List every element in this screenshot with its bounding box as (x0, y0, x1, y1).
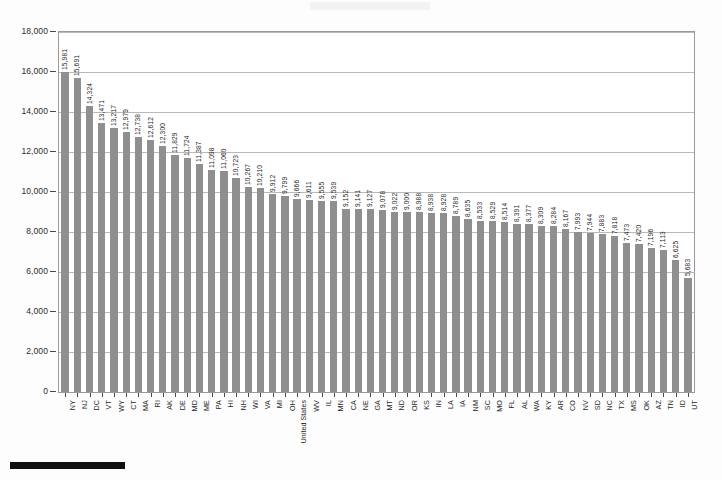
bar: 8,377 (525, 32, 532, 392)
bar-value-label: 8,391 (513, 205, 520, 222)
bar-value-label: 11,724 (183, 135, 190, 156)
bar: 9,555 (318, 32, 325, 392)
x-tick-label: IA (458, 400, 467, 407)
x-tick-mark (346, 393, 347, 397)
x-tick-label: WV (312, 400, 321, 412)
x-tick-label: OK (642, 400, 651, 411)
bar: 10,267 (245, 32, 252, 392)
bar: 7,196 (648, 32, 655, 392)
bar-rect (379, 210, 386, 392)
bar-value-label: 13,471 (97, 100, 104, 121)
y-tick-mark (50, 151, 56, 152)
x-tick-mark (566, 393, 567, 397)
bar: 8,167 (562, 32, 569, 392)
bar-value-label: 11,829 (171, 133, 178, 154)
x-tick-mark (602, 393, 603, 397)
x-tick-mark (322, 393, 323, 397)
x-tick-mark (370, 393, 371, 397)
bar: 9,127 (367, 32, 374, 392)
x-tick-mark (187, 393, 188, 397)
bar-rect (623, 243, 630, 392)
x-tick-label: IN (434, 400, 443, 407)
bar-value-label: 13,217 (110, 105, 117, 126)
x-tick-mark (688, 393, 689, 397)
bar-rect (61, 72, 68, 392)
bars-layer: 15,98115,69114,32413,47113,21712,97912,7… (59, 32, 694, 392)
bar-rect (391, 212, 398, 392)
bar-rect (342, 209, 349, 392)
y-tick-mark (50, 311, 56, 312)
x-tick-label: IL (324, 400, 333, 406)
x-tick-label: MN (336, 400, 345, 411)
bar-rect (501, 222, 508, 392)
footer-rule (10, 462, 125, 469)
bar: 15,981 (61, 32, 68, 392)
x-tick-label: MD (190, 400, 199, 411)
bar-value-label: 7,818 (610, 216, 617, 233)
x-tick-mark (493, 393, 494, 397)
bar-value-label: 9,912 (268, 175, 275, 192)
x-tick-mark (529, 393, 530, 397)
x-tick-label: HI (226, 400, 235, 407)
x-tick-label: AR (556, 400, 565, 410)
x-tick-label: CA (349, 400, 358, 410)
bar: 7,473 (623, 32, 630, 392)
x-tick-mark (260, 393, 261, 397)
bar-value-label: 11,387 (195, 142, 202, 163)
x-tick-label: AL (520, 400, 529, 409)
x-tick-label: GA (373, 400, 382, 411)
x-tick-label: NH (239, 400, 248, 411)
x-tick-mark (309, 393, 310, 397)
y-tick-label: 0 (43, 386, 48, 396)
x-tick-mark (102, 393, 103, 397)
x-tick-mark (590, 393, 591, 397)
bar-rect (220, 171, 227, 392)
bar: 6,625 (672, 32, 679, 392)
x-tick-mark (224, 393, 225, 397)
x-tick-mark (236, 393, 237, 397)
x-tick-mark (395, 393, 396, 397)
y-tick-mark (50, 191, 56, 192)
bar-value-label: 9,666 (293, 179, 300, 196)
x-tick-label: MI (275, 400, 284, 408)
x-tick-label: WI (251, 400, 260, 409)
bar-rect (648, 248, 655, 392)
bar-rect (98, 123, 105, 392)
x-tick-mark (480, 393, 481, 397)
x-tick-mark (517, 393, 518, 397)
bar-rect (672, 260, 679, 393)
bar-value-label: 8,789 (451, 197, 458, 214)
bar-rect (403, 212, 410, 392)
x-tick-mark (468, 393, 469, 397)
bar: 8,514 (501, 32, 508, 392)
x-axis: NYNJDCVTWYCTMARIAKDEMDMEPAHINHWIVAMIOHUn… (59, 393, 694, 463)
bar: 9,912 (269, 32, 276, 392)
bar-rect (525, 224, 532, 392)
bar-rect (513, 224, 520, 392)
bar: 5,683 (684, 32, 691, 392)
bar-rect (171, 155, 178, 392)
x-tick-mark (358, 393, 359, 397)
x-tick-mark (639, 393, 640, 397)
x-tick-label: ID (678, 400, 687, 407)
bar-value-label: 8,928 (439, 194, 446, 211)
bar-rect (599, 234, 606, 392)
x-tick-label: MO (495, 400, 504, 412)
bar-value-label: 7,196 (647, 229, 654, 246)
x-tick-mark (505, 393, 506, 397)
bar: 8,789 (452, 32, 459, 392)
x-tick-label: United States (300, 400, 307, 443)
bar: 9,022 (391, 32, 398, 392)
bar: 8,391 (513, 32, 520, 392)
x-tick-mark (554, 393, 555, 397)
bar: 8,284 (550, 32, 557, 392)
bar-rect (86, 106, 93, 392)
x-tick-label: FL (507, 400, 516, 409)
y-tick-label: 10,000 (21, 186, 48, 196)
x-tick-mark (676, 393, 677, 397)
y-tick-label: 4,000 (26, 306, 48, 316)
x-tick-mark (456, 393, 457, 397)
x-tick-label: VA (263, 400, 272, 409)
bar-value-label: 8,529 (488, 202, 495, 219)
y-tick-mark (50, 71, 56, 72)
